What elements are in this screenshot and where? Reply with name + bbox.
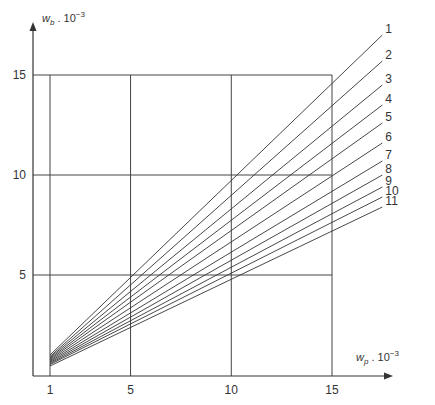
x-tick-label: 10 <box>225 383 239 397</box>
series-label-11: 11 <box>385 194 398 208</box>
series-label-6: 6 <box>385 130 392 144</box>
series-line-10 <box>50 197 382 365</box>
y-tick-label: 15 <box>13 68 27 82</box>
y-tick-label: 5 <box>19 268 26 282</box>
series-label-1: 1 <box>385 22 392 36</box>
series-line-5 <box>50 123 382 360</box>
series-label-2: 2 <box>385 48 392 62</box>
x-axis-label: wp . 10−3 <box>356 349 399 366</box>
series-line-2 <box>50 61 382 357</box>
series-labels: 1234567891011 <box>385 22 399 208</box>
x-tick-label: 15 <box>325 383 339 397</box>
x-tick-label: 5 <box>127 383 134 397</box>
y-axis-arrow-icon <box>30 22 37 31</box>
series-label-4: 4 <box>385 92 392 106</box>
grid <box>33 75 332 376</box>
series-line-8 <box>50 175 382 363</box>
series-line-7 <box>50 161 382 362</box>
series-line-4 <box>50 105 382 359</box>
y-axis-label: wb . 10−3 <box>42 10 85 27</box>
series-lines <box>50 35 382 366</box>
series-line-3 <box>50 85 382 358</box>
x-axis-arrow-icon <box>384 373 393 380</box>
series-label-3: 3 <box>385 72 392 86</box>
series-line-1 <box>50 35 382 355</box>
series-label-7: 7 <box>385 148 392 162</box>
x-tick-label: 1 <box>47 383 54 397</box>
series-label-5: 5 <box>385 110 392 124</box>
series-line-6 <box>50 143 382 361</box>
chart: 15101551015 1234567891011 wb . 10−3 wp .… <box>0 0 435 405</box>
y-tick-label: 10 <box>13 168 27 182</box>
series-line-11 <box>50 207 382 366</box>
